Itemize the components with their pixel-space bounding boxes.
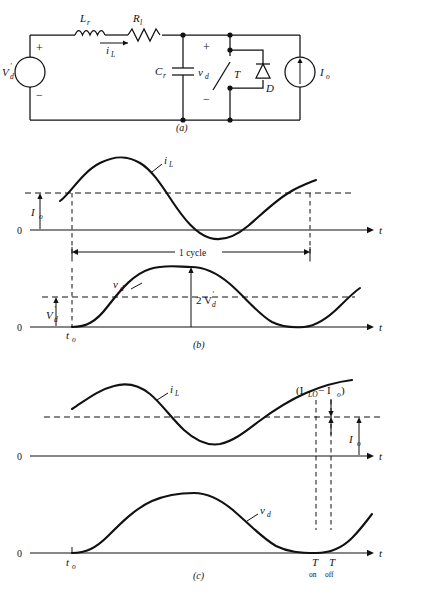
b-current-axis-arrowhead [367,227,374,233]
b-il-leader [152,164,162,172]
c-current-time-label: t [379,450,383,462]
c-vd-curve-leader [247,514,258,521]
cap-voltage-main: v [198,66,203,78]
source-label-prime: ' [10,62,12,71]
source-label-main: V [2,66,10,78]
capacitor-label-sub: r [163,71,166,80]
b-current-time-label: t [379,224,383,236]
c-t-off-label: T [329,556,336,568]
c-vd-curve-label-sub: d [267,510,271,519]
node-bottom-switch [227,117,232,122]
inductor-label: L r [79,12,90,27]
c-capacitor-voltage-curve [72,493,372,553]
source-minus-sign: − [36,88,43,102]
c-crossing-close: ) [341,384,345,397]
c-t-off-sub: off [325,570,334,579]
b-vd-curve-leader [131,283,142,289]
c-crossing-arrow-up-head [328,417,333,423]
c-t-on-label: T [312,556,319,568]
c-t-off-annotation: T off [325,556,336,579]
b-vd-label-main: V [46,309,54,321]
inductor-current-label: i [106,44,109,56]
c-voltage-zero-label: 0 [17,548,22,559]
inductor-current-arrow: i L [100,40,128,59]
panel-c-current-plot: 0 t i L (I LO − I o ) I o [17,380,383,530]
b-t0-label-sub: o [72,335,76,344]
current-arrow-head [123,40,128,45]
b-cycle-arrow-left [72,249,78,255]
current-source-arrow-head [297,58,302,63]
b-peak-label-main: 2 V [196,294,212,306]
inductor-current-sub: L [110,50,115,59]
node-top-cap [180,32,185,37]
c-voltage-axis-arrowhead [367,550,374,556]
b-cycle-annotation: 1 cycle [72,247,310,258]
voltage-source-symbol [15,57,45,87]
panel-c-voltage-plot: 0 t t o v d T on T off (c) [17,493,383,582]
c-io-label-sub: o [357,439,361,448]
resistor-label-sub: l [140,18,142,27]
b-peak-label-sub: d [212,300,216,309]
cap-voltage-sub: d [205,72,209,81]
panel-a-label: (a) [176,122,188,134]
b-t0-label-main: t [66,329,70,341]
c-crossing-sub1: LO [307,390,318,399]
c-io-measure: I o [348,417,362,455]
b-voltage-axis-arrowhead [367,324,374,330]
diode-wire-top [230,50,263,64]
c-il-label-sub: L [174,389,179,398]
panel-b-label: (b) [193,339,205,351]
b-io-measure: I o [30,193,43,229]
resistor-label-main: R [132,12,140,24]
b-vd-arrow-head [53,297,58,303]
c-io-label-main: I [348,433,354,445]
b-vd-measure: V d ' [46,297,59,326]
b-il-label-main: i [164,154,167,166]
source-label-sub: d [10,72,14,81]
resistor-label: R l [132,12,142,27]
c-crossing-annotation: (I LO − I o ) [296,384,345,435]
current-source-main: I [319,66,325,78]
diode-wire-bottom [230,80,263,88]
c-t0-label-main: t [66,556,70,568]
c-crossing-open: (I [296,384,304,397]
b-il-label-sub: L [168,160,173,169]
figure-svg: + − V d ' L r R l i L [0,0,434,596]
panel-a-circuit: + − V d ' L r R l i L [2,12,330,134]
switch-blade [213,62,230,90]
c-current-zero-label: 0 [17,451,22,462]
c-crossing-mid: − I [318,384,331,396]
inductor-label-sub: r [87,18,90,27]
b-vd-curve-label-main: v [113,278,118,290]
c-crossing-arrow-down-head [328,411,333,417]
c-vd-curve-label-main: v [260,504,265,516]
b-vd-label-sub: d [54,315,58,324]
b-current-zero-label: 0 [17,225,22,236]
b-cycle-label: 1 cycle [179,248,206,258]
source-plus-sign: + [36,41,43,55]
resistor-symbol [128,29,160,41]
b-inductor-current-curve [60,157,316,239]
c-t-on-sub: on [309,570,317,579]
switch-label: T [234,68,241,80]
vd-minus-sign: − [203,92,210,106]
node-top-switch [227,32,232,37]
cap-voltage-label: v d [198,66,209,81]
b-io-label-main: I [30,206,36,218]
capacitor-label: C r [155,65,166,80]
diode-label: D [265,82,274,94]
b-peak-label-prime: ' [212,290,214,299]
diode-triangle [256,64,270,78]
c-current-axis-arrowhead [367,453,374,459]
panel-b-voltage-plot: 0 t V d ' 2 V d ' v d t o [17,266,383,351]
c-io-arrow-head [356,417,361,423]
c-il-leader [157,393,168,400]
c-voltage-time-label: t [379,547,383,559]
current-source-label: I o [319,66,330,81]
capacitor-label-main: C [155,65,163,77]
figure-container: + − V d ' L r R l i L [0,0,434,596]
b-voltage-zero-label: 0 [17,322,22,333]
b-vd-curve-label-sub: d [120,284,124,293]
b-io-label-sub: o [39,212,43,221]
panel-b-current-plot: 0 t I o i L 1 cycle [17,154,383,262]
